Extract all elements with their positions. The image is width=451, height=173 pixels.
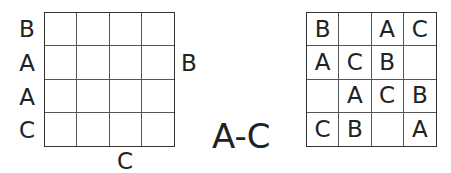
- puzzle-grid: [44, 12, 175, 147]
- solution-cell: A: [307, 46, 339, 79]
- left-clue-row-2: A: [17, 52, 37, 75]
- puzzle-cell[interactable]: [77, 80, 109, 113]
- solution-grid: B A C A C B A C B C B A: [306, 12, 437, 147]
- solution-cell: [339, 13, 371, 46]
- solution-cell: C: [404, 13, 436, 46]
- solution-cell: [372, 113, 404, 146]
- puzzle-cell[interactable]: [142, 13, 174, 46]
- puzzle-cell[interactable]: [142, 46, 174, 79]
- solution-cell: A: [339, 80, 371, 113]
- solution-cell: [307, 80, 339, 113]
- solution-cell: B: [307, 13, 339, 46]
- solution-cell: C: [339, 46, 371, 79]
- solution-cell: A: [372, 13, 404, 46]
- puzzle-cell[interactable]: [77, 113, 109, 146]
- puzzle-cell[interactable]: [77, 46, 109, 79]
- left-clue-row-3: A: [17, 86, 37, 109]
- left-clue-row-1: B: [17, 18, 37, 41]
- puzzle-cell[interactable]: [110, 80, 142, 113]
- solution-cell: A: [404, 113, 436, 146]
- puzzle-cell[interactable]: [45, 80, 77, 113]
- puzzle-cell[interactable]: [142, 113, 174, 146]
- puzzle-cell[interactable]: [110, 46, 142, 79]
- solution-cell: B: [404, 80, 436, 113]
- puzzle-cell[interactable]: [110, 113, 142, 146]
- solution-cell: [404, 46, 436, 79]
- puzzle-cell[interactable]: [45, 13, 77, 46]
- right-clue-row-2: B: [179, 52, 199, 75]
- puzzle-cell[interactable]: [77, 13, 109, 46]
- puzzle-cell[interactable]: [45, 113, 77, 146]
- letter-range-label: A-C: [212, 119, 271, 153]
- bottom-clue-col-2: C: [115, 150, 135, 173]
- solution-cell: C: [372, 80, 404, 113]
- puzzle-cell[interactable]: [45, 46, 77, 79]
- solution-cell: B: [372, 46, 404, 79]
- left-clue-row-4: C: [17, 119, 37, 142]
- puzzle-cell[interactable]: [142, 80, 174, 113]
- puzzle-cell[interactable]: [110, 13, 142, 46]
- solution-cell: C: [307, 113, 339, 146]
- solution-cell: B: [339, 113, 371, 146]
